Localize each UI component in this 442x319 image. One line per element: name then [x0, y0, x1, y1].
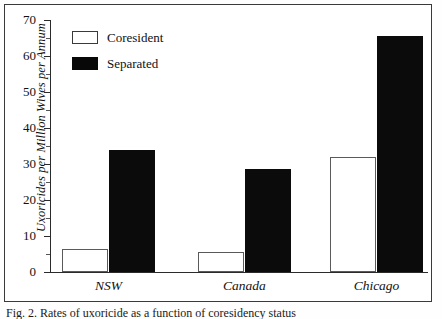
y-tick-label: 40 [10, 121, 36, 134]
figure-container: Uxoricides per Million Wives per Annum 0… [0, 0, 442, 319]
y-tick-label: 20 [10, 193, 36, 206]
bar-chicago-coresident [330, 157, 376, 272]
y-tick-label: 50 [10, 85, 36, 98]
legend-item-separated: Separated [72, 54, 163, 73]
y-tick-major [44, 92, 50, 93]
y-tick-major [44, 56, 50, 57]
y-tick-minor [46, 146, 50, 147]
y-tick-minor [46, 110, 50, 111]
chart-legend: Coresident Separated [72, 28, 163, 80]
y-tick-major [44, 128, 50, 129]
x-axis-label-chicago: Chicago [317, 278, 437, 294]
x-axis-line [50, 272, 428, 273]
y-tick-minor [46, 182, 50, 183]
y-tick-major [44, 272, 50, 273]
bar-nsw-coresident [62, 249, 108, 272]
y-tick-minor [46, 254, 50, 255]
y-tick-label: 70 [10, 13, 36, 26]
bar-canada-separated [245, 169, 291, 272]
y-tick-minor [46, 74, 50, 75]
legend-swatch-coresident-icon [72, 31, 98, 44]
y-tick-minor [46, 218, 50, 219]
x-axis-label-canada: Canada [185, 278, 305, 294]
y-tick-major [44, 236, 50, 237]
x-axis-label-nsw: NSW [49, 278, 169, 294]
y-tick-label: 60 [10, 49, 36, 62]
y-tick-major [44, 20, 50, 21]
y-tick-label: 30 [10, 157, 36, 170]
bar-canada-coresident [198, 252, 244, 272]
legend-label-separated: Separated [107, 56, 158, 72]
y-tick-major [44, 200, 50, 201]
bar-nsw-separated [109, 150, 155, 272]
y-tick-minor [46, 38, 50, 39]
legend-item-coresident: Coresident [72, 28, 163, 47]
y-tick-label: 10 [10, 229, 36, 242]
legend-swatch-separated-icon [72, 57, 98, 70]
y-tick-label: 0 [10, 265, 36, 278]
figure-caption: Fig. 2. Rates of uxoricide as a function… [6, 306, 436, 319]
legend-label-coresident: Coresident [107, 30, 163, 46]
y-tick-major [44, 164, 50, 165]
bar-chicago-separated [377, 36, 423, 272]
